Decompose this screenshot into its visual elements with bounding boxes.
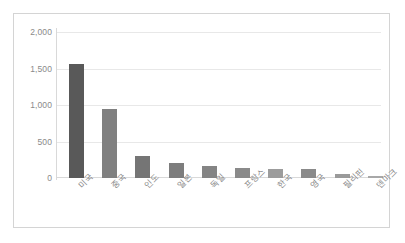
bar bbox=[102, 109, 117, 178]
x-axis-tick-label: 덴마크 bbox=[373, 165, 399, 191]
chart-frame: 05001,0001,5002,000미국중국인도일본독일프랑스한국영국필리핀덴… bbox=[13, 13, 390, 228]
y-axis-tick-label: 0 bbox=[47, 173, 52, 183]
y-axis-tick-label: 500 bbox=[38, 137, 52, 147]
y-axis-tick-label: 1,500 bbox=[30, 64, 52, 74]
y-axis-tick-label: 1,000 bbox=[30, 100, 52, 110]
y-axis-tick-label: 2,000 bbox=[30, 27, 52, 37]
gridline bbox=[57, 105, 381, 106]
gridline bbox=[57, 32, 381, 33]
plot-area: 05001,0001,5002,000미국중국인도일본독일프랑스한국영국필리핀덴… bbox=[57, 32, 381, 178]
gridline bbox=[57, 69, 381, 70]
bar bbox=[69, 64, 84, 178]
